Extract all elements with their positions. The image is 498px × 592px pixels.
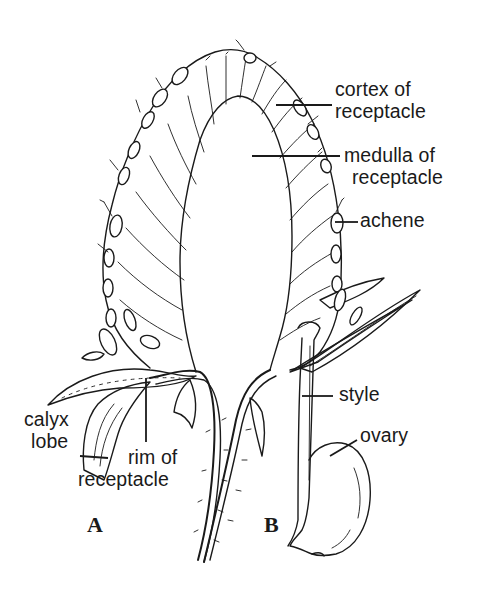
achene-mark [244,53,256,63]
achene-mark [103,279,113,297]
label-style: style [339,383,380,405]
achene-mark [106,309,116,327]
label-achene: achene [360,209,425,231]
panel-label-b: B [264,512,279,538]
achene-mark [122,308,139,332]
label-medulla-line2: receptacle [352,166,443,188]
achene-mark [104,249,114,267]
achene-mark [331,245,341,263]
label-cortex: cortex of receptacle [335,78,426,122]
label-calyx-lobe-line2: lobe [31,430,69,452]
diagram-stage: cortex of receptacle medulla of receptac… [0,0,498,592]
achene-mark [331,213,343,233]
leader-lines [80,105,358,458]
style-outline [290,322,324,556]
achene-mark [116,166,132,186]
pistil [288,322,370,556]
panel-label-a: A [87,512,103,538]
label-calyx-lobe: calyx lobe [24,408,69,452]
vascular-strands [118,56,334,340]
label-cortex-line1: cortex of [335,78,426,100]
label-rim-line1: rim of [128,446,177,468]
label-medulla: medulla of receptacle [344,144,443,188]
achenes [96,53,343,358]
achene-mark [291,98,310,118]
ovary-outline [309,443,370,556]
stamen-mark [348,305,365,326]
achene-mark [305,123,322,142]
achene-mark [139,333,162,351]
label-calyx-lobe-line1: calyx [24,408,69,430]
label-rim-line2: receptacle [78,468,177,490]
achene-mark [169,64,191,87]
label-rim: rim of receptacle [78,446,177,490]
medulla-outline [180,96,292,372]
label-cortex-line2: receptacle [335,100,426,122]
label-medulla-line1: medulla of [344,144,443,166]
achene-mark [108,214,124,238]
label-ovary: ovary [360,424,408,446]
